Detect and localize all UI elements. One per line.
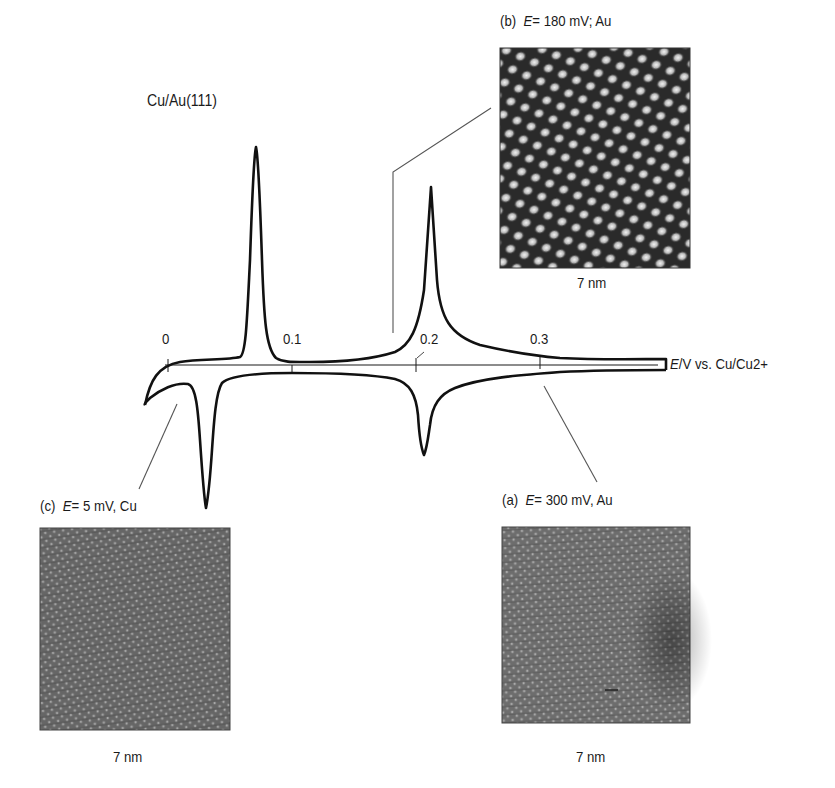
leader-line-a <box>544 386 597 482</box>
panel-a-caption: (a) E= 300 mV, Au <box>502 491 613 508</box>
panel-a-scale: 7 nm <box>576 748 605 765</box>
panel-c-var: E <box>63 497 72 514</box>
panel-b-rest: = 180 mV; Au <box>532 12 611 29</box>
panel-c-rest: = 5 mV, Cu <box>72 497 137 514</box>
stm-image-c <box>40 528 230 730</box>
panel-c-tag: (c) <box>40 497 55 514</box>
leader-line-c <box>139 404 177 489</box>
tick-label-0: 0 <box>162 330 169 347</box>
panel-b-tag: (b) <box>500 12 516 29</box>
stm-image-a <box>502 527 712 723</box>
panel-c-caption: (c) E= 5 mV, Cu <box>40 497 137 514</box>
cyclic-voltammogram <box>0 0 835 788</box>
panel-b-scale: 7 nm <box>577 274 606 291</box>
x-axis-label: E/V vs. Cu/Cu2+ <box>670 355 768 372</box>
panel-a-var: E <box>525 491 534 508</box>
x-axis-label-rest: /V vs. Cu/Cu2+ <box>679 355 768 372</box>
panel-b-caption: (b) E= 180 mV; Au <box>500 12 611 29</box>
tick-label-0.2: 0.2 <box>420 330 438 347</box>
cathodic-branch <box>145 370 666 508</box>
x-axis-label-var: E <box>670 355 679 372</box>
panel-a-rest: = 300 mV, Au <box>534 491 612 508</box>
panel-b-var: E <box>523 12 532 29</box>
stm-image-b <box>500 48 690 268</box>
tick-label-0.3: 0.3 <box>530 330 548 347</box>
tick-label-0.1: 0.1 <box>283 330 301 347</box>
leader-line-b <box>393 108 491 333</box>
panel-a-tag: (a) <box>502 491 518 508</box>
panel-c-scale: 7 nm <box>113 748 142 765</box>
